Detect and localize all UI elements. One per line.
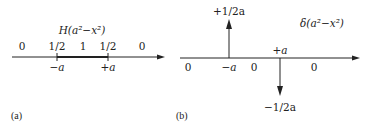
impulse-up-arrow-icon <box>226 19 232 29</box>
impulse-down-arrow-icon <box>277 86 283 96</box>
impulse-up-label: +1/2a <box>213 6 245 17</box>
panel-a-tag: (a) <box>11 110 22 121</box>
impulse-down-label: −1/2a <box>264 102 296 113</box>
panel-b-title: δ(a²−x²) <box>300 18 344 29</box>
panel-b-axis-label-3: 0 <box>311 62 318 73</box>
plus-a-label: +a <box>272 45 287 56</box>
panel-b-tag: (b) <box>176 110 188 121</box>
panel-a-value-2: 1 <box>80 41 87 52</box>
panel-b-axis-label-2: 0 <box>251 62 258 73</box>
axis-b-arrow-icon <box>352 56 360 61</box>
panel-b-axis-label-1: −a <box>221 62 236 73</box>
panel-a-value-3: 1/2 <box>100 41 117 52</box>
panel-a-value-1: 1/2 <box>49 41 66 52</box>
panel-a-tick-minus-a: −a <box>49 62 64 73</box>
axis-a-arrow-icon <box>157 55 165 60</box>
panel-a-value-4: 0 <box>139 41 146 52</box>
panel-a-tick-plus-a: +a <box>100 62 115 73</box>
panel-a-title: H(a²−x²) <box>59 25 106 36</box>
panel-a-value-0: 0 <box>19 41 26 52</box>
panel-b-axis-label-0: 0 <box>185 62 192 73</box>
